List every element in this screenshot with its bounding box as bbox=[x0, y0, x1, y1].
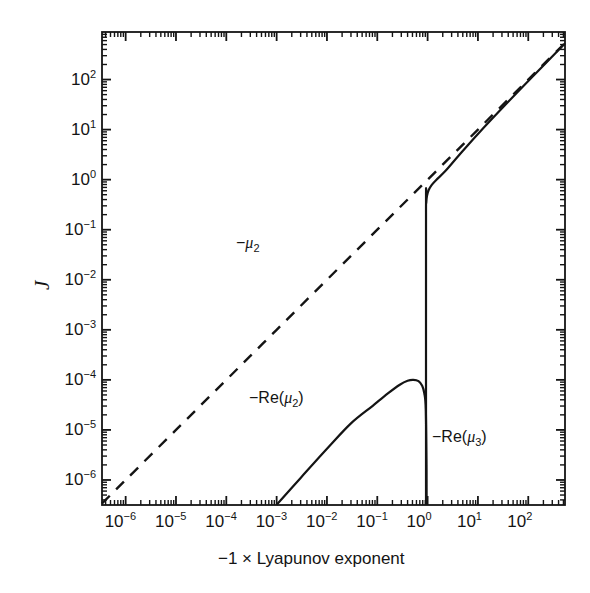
y-tick-label: 10−1 bbox=[52, 221, 96, 238]
y-tick-label: 10−2 bbox=[52, 271, 96, 288]
x-tick-label: 100 bbox=[407, 513, 432, 530]
x-tick-label: 10−5 bbox=[155, 513, 186, 530]
y-tick-label: 10−4 bbox=[52, 371, 96, 388]
x-tick-label: 10−4 bbox=[205, 513, 236, 530]
y-tick-label: 10−6 bbox=[52, 471, 96, 488]
re-mu2-label: −Re(μ2) bbox=[249, 390, 304, 406]
y-axis-title: J bbox=[32, 281, 53, 290]
y-tick-label: 101 bbox=[52, 121, 96, 138]
y-tick-label: 100 bbox=[52, 171, 96, 188]
x-tick-label: 10−3 bbox=[256, 513, 287, 530]
x-tick-label: 10−1 bbox=[356, 513, 387, 530]
y-tick-label: 102 bbox=[52, 71, 96, 88]
y-tick-label: 10−3 bbox=[52, 321, 96, 338]
figure-container: 10−610−510−410−310−210−1100101102 10−610… bbox=[0, 0, 590, 593]
x-axis-title: −1 × Lyapunov exponent bbox=[218, 550, 405, 567]
mu2-label: −μ2 bbox=[236, 235, 260, 251]
x-tick-label: 102 bbox=[507, 513, 532, 530]
lyapunov-jacobian-plot bbox=[0, 0, 590, 593]
x-tick-label: 101 bbox=[457, 513, 482, 530]
x-tick-label: 10−2 bbox=[306, 513, 337, 530]
x-tick-label: 10−6 bbox=[105, 513, 136, 530]
re-mu3-label: −Re(μ3) bbox=[432, 429, 487, 445]
y-tick-label: 10−5 bbox=[52, 421, 96, 438]
